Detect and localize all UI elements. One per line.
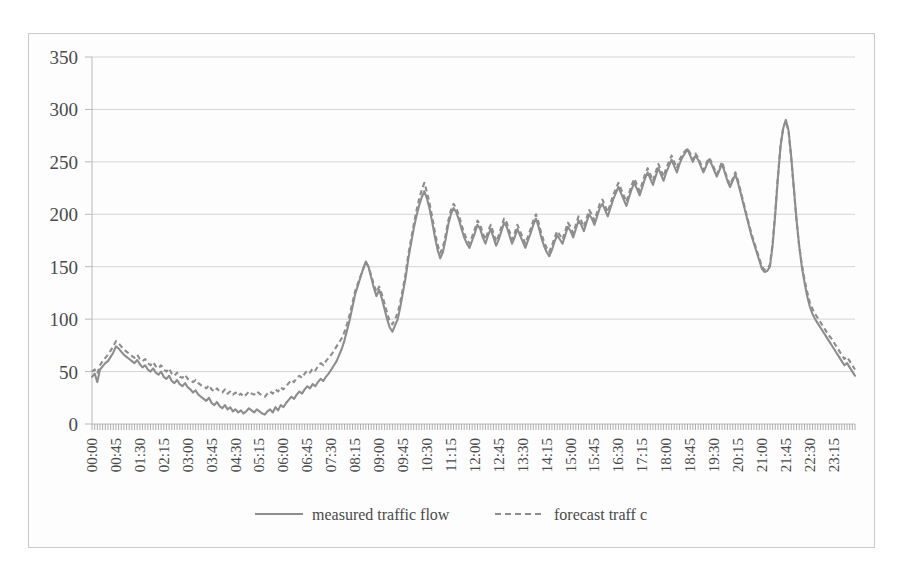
y-axis-tick-label: 300 [50, 99, 79, 120]
x-axis-tick-label: 13:30 [515, 438, 531, 472]
gridlines [85, 57, 855, 424]
x-axis-tick-label: 11:15 [443, 438, 459, 472]
y-axis-tick-label: 100 [50, 309, 79, 330]
traffic-flow-chart: 050100150200250300350 00:0000:4501:3002:… [0, 0, 901, 570]
x-axis-tick-label: 10:30 [419, 438, 435, 472]
x-axis-tick-label: 03:45 [204, 438, 220, 472]
legend-label-measured: measured traffic flow [312, 506, 450, 523]
x-axis-tick-label: 06:45 [299, 438, 315, 472]
x-axis-tick-label: 03:00 [180, 438, 196, 472]
x-axis-tick-label: 07:30 [323, 438, 339, 472]
x-axis-tick-label: 06:00 [275, 438, 291, 472]
x-axis-tick-label: 12:45 [491, 438, 507, 472]
x-axis-tick-label: 12:00 [467, 438, 483, 472]
legend-label-forecast: forecast traff c [554, 506, 647, 523]
x-axis-tick-label: 14:15 [539, 438, 555, 472]
y-axis-tick-label: 50 [59, 362, 78, 383]
y-axis-tick-label: 150 [50, 257, 79, 278]
chart-legend: measured traffic flowforecast traff c [255, 506, 647, 523]
y-axis-tick-label: 200 [50, 204, 79, 225]
data-series [92, 120, 855, 415]
x-axis-tick-label: 22:30 [802, 438, 818, 472]
y-axis-tick-label: 350 [50, 47, 79, 68]
x-axis-tick-label: 19:30 [706, 438, 722, 472]
x-axis-tick-label: 09:00 [371, 438, 387, 472]
y-axis-tick-label: 0 [69, 414, 79, 435]
x-axis-tick-label: 01:30 [132, 438, 148, 472]
x-axis-tick-labels: 00:0000:4501:3002:1503:0003:4504:3005:15… [84, 438, 842, 472]
axis-lines [92, 57, 855, 430]
chart-canvas: 050100150200250300350 00:0000:4501:3002:… [0, 0, 901, 570]
x-axis-tick-label: 09:45 [395, 438, 411, 472]
x-axis-tick-label: 05:15 [251, 438, 267, 472]
x-axis-tick-label: 18:00 [658, 438, 674, 472]
x-axis-tick-label: 15:45 [586, 438, 602, 472]
figure-page: 050100150200250300350 00:0000:4501:3002:… [0, 0, 901, 570]
x-axis-tick-label: 08:15 [347, 438, 363, 472]
x-axis-tick-label: 18:45 [682, 438, 698, 472]
measured-series-line [92, 120, 855, 415]
x-axis-tick-label: 02:15 [156, 438, 172, 472]
x-axis-tick-label: 23:15 [826, 438, 842, 472]
x-axis-tick-label: 16:30 [610, 438, 626, 472]
x-axis-tick-label: 17:15 [634, 438, 650, 472]
x-axis-tick-label: 21:00 [754, 438, 770, 472]
y-axis-tick-label: 250 [50, 152, 79, 173]
x-axis-tick-label: 04:30 [228, 438, 244, 472]
x-axis-tick-label: 00:00 [84, 438, 100, 472]
x-axis-tick-label: 15:00 [563, 438, 579, 472]
x-axis-tick-label: 00:45 [108, 438, 124, 472]
y-axis-tick-labels: 050100150200250300350 [50, 47, 79, 435]
x-axis-tick-label: 20:15 [730, 438, 746, 472]
x-axis-tick-label: 21:45 [778, 438, 794, 472]
